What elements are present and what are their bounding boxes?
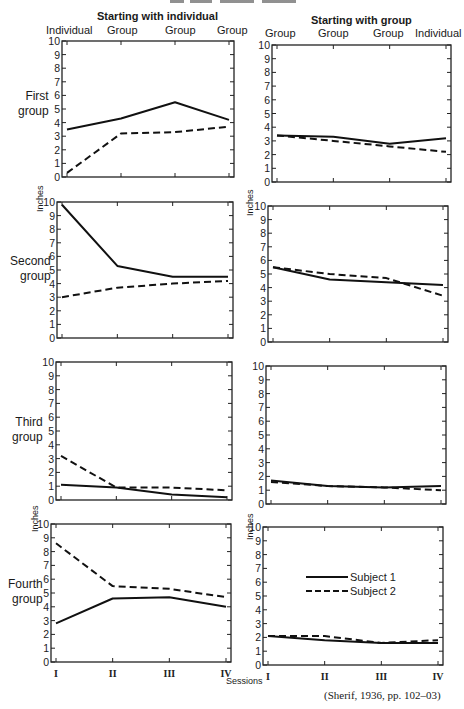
y-tick-label: 4 xyxy=(48,439,54,451)
y-tick-label: 5 xyxy=(260,268,266,280)
y-tick-label: 4 xyxy=(264,121,270,133)
y-tick-label: 2 xyxy=(49,305,55,317)
y-tick-label: 6 xyxy=(260,254,266,266)
y-tick-label: 10 xyxy=(252,360,264,372)
y-tick-label: 9 xyxy=(255,535,261,547)
y-tick-label: 0 xyxy=(264,176,270,188)
y-tick-label: 3 xyxy=(43,615,49,627)
y-tick-label: 3 xyxy=(48,453,54,465)
y-tick-label: 3 xyxy=(49,291,55,303)
y-tick-label: 5 xyxy=(54,103,60,115)
y-tick-label: 0 xyxy=(43,656,49,668)
y-tick-label: 2 xyxy=(54,144,60,156)
y-tick-label: 0 xyxy=(48,494,54,506)
y-tick-label: 9 xyxy=(264,53,270,65)
y-tick-label: 2 xyxy=(260,309,266,321)
y-tick-label: 10 xyxy=(48,35,60,47)
y-tick-label: 1 xyxy=(258,484,264,496)
subject-1-line xyxy=(62,205,228,277)
y-tick-label: 1 xyxy=(49,318,55,330)
y-tick-label: 8 xyxy=(255,549,261,561)
y-tick-label: 6 xyxy=(43,573,49,585)
subject-2-line xyxy=(62,281,228,297)
y-tick-label: 1 xyxy=(260,322,266,334)
subject-2-line xyxy=(277,135,446,151)
y-tick-label: 7 xyxy=(54,76,60,88)
legend-subject-2: Subject 2 xyxy=(350,585,396,597)
y-tick-label: 5 xyxy=(49,264,55,276)
legend-subject-1: Subject 1 xyxy=(350,571,396,583)
y-tick-label: 4 xyxy=(43,601,49,613)
y-tick-label: 2 xyxy=(48,466,54,478)
citation: (Sherif, 1936, pp. 102–03) xyxy=(324,689,441,701)
y-tick-label: 6 xyxy=(54,89,60,101)
subject-1-line xyxy=(277,135,446,143)
y-tick-label: 7 xyxy=(43,559,49,571)
legend: Subject 1 Subject 2 xyxy=(306,571,396,603)
y-tick-label: 2 xyxy=(43,628,49,640)
y-tick-label: 3 xyxy=(260,295,266,307)
y-tick-label: 6 xyxy=(264,94,270,106)
y-tick-label: 7 xyxy=(255,562,261,574)
y-tick-label: 10 xyxy=(249,521,261,533)
y-tick-label: 7 xyxy=(258,401,264,413)
subject-2-line xyxy=(56,543,226,597)
y-tick-label: 1 xyxy=(48,480,54,492)
y-tick-label: 9 xyxy=(54,49,60,61)
y-tick-label: 7 xyxy=(49,237,55,249)
x-tick-label: I xyxy=(54,668,58,679)
x-tick-label: I xyxy=(266,671,270,682)
y-tick-label: 6 xyxy=(48,411,54,423)
y-tick-label: 1 xyxy=(43,642,49,654)
y-tick-label: 2 xyxy=(258,470,264,482)
y-tick-label: 4 xyxy=(255,604,261,616)
plot-frame xyxy=(56,362,232,500)
y-tick-label: 9 xyxy=(48,370,54,382)
y-tick-label: 3 xyxy=(258,457,264,469)
y-tick-label: 5 xyxy=(43,587,49,599)
y-tick-label: 8 xyxy=(49,223,55,235)
y-tick-label: 4 xyxy=(258,443,264,455)
y-tick-label: 6 xyxy=(258,415,264,427)
y-tick-label: 0 xyxy=(260,336,266,348)
y-tick-label: 0 xyxy=(255,659,261,671)
y-tick-label: 4 xyxy=(49,278,55,290)
y-tick-label: 4 xyxy=(260,282,266,294)
y-tick-label: 8 xyxy=(48,384,54,396)
y-tick-label: 8 xyxy=(264,66,270,78)
x-tick-label: IV xyxy=(432,671,444,682)
plot-frame xyxy=(57,202,233,338)
y-tick-label: 7 xyxy=(260,241,266,253)
y-tick-label: 0 xyxy=(54,171,60,183)
y-tick-label: 1 xyxy=(264,162,270,174)
y-tick-label: 9 xyxy=(260,214,266,226)
y-tick-label: 3 xyxy=(264,135,270,147)
y-tick-label: 2 xyxy=(255,631,261,643)
x-tick-label: III xyxy=(375,671,387,682)
y-tick-label: 0 xyxy=(258,498,264,510)
y-tick-label: 6 xyxy=(255,576,261,588)
y-tick-label: 10 xyxy=(258,39,270,51)
y-tick-label: 9 xyxy=(49,210,55,222)
y-tick-label: 8 xyxy=(258,388,264,400)
plot-frame xyxy=(268,206,448,342)
legend-line-icons xyxy=(306,571,350,603)
y-tick-label: 7 xyxy=(264,80,270,92)
y-tick-label: 9 xyxy=(43,532,49,544)
y-tick-label: 10 xyxy=(43,196,55,208)
y-tick-label: 5 xyxy=(48,425,54,437)
y-tick-label: 7 xyxy=(48,397,54,409)
x-tick-label: III xyxy=(163,668,175,679)
y-tick-label: 2 xyxy=(264,149,270,161)
y-tick-label: 10 xyxy=(42,356,54,368)
y-tick-label: 1 xyxy=(255,645,261,657)
y-tick-label: 3 xyxy=(54,130,60,142)
y-tick-label: 1 xyxy=(54,157,60,169)
y-tick-label: 3 xyxy=(255,618,261,630)
y-tick-label: 0 xyxy=(49,332,55,344)
y-tick-label: 5 xyxy=(264,108,270,120)
x-tick-label: II xyxy=(109,668,117,679)
y-tick-label: 10 xyxy=(37,518,49,530)
subject-2-line xyxy=(67,127,229,173)
y-tick-label: 10 xyxy=(254,200,266,212)
